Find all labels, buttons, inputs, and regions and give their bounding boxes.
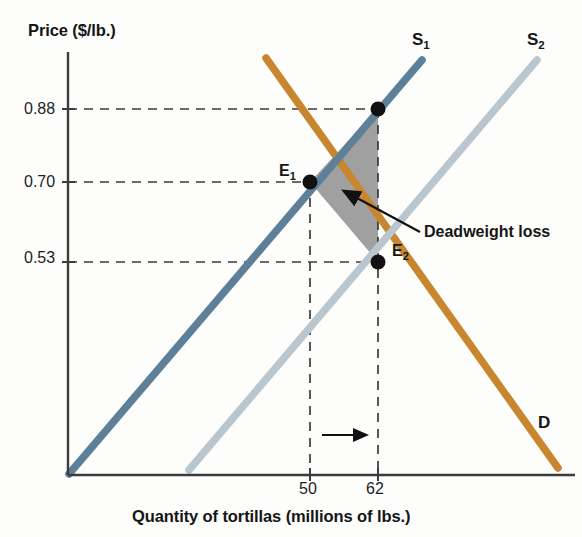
- deadweight-loss-label: Deadweight loss: [424, 224, 550, 240]
- supply-curve-s1: [69, 60, 422, 474]
- e1-subscript: 1: [290, 170, 296, 182]
- supply-curve-s1-label: S1: [412, 31, 430, 52]
- point-e1-label: E1: [279, 163, 296, 182]
- economics-supply-demand-figure: Price ($/lb.) Quantity of tortillas (mil…: [0, 0, 582, 537]
- point-e1: [303, 175, 318, 190]
- demand-curve-label: D: [538, 414, 550, 431]
- point-supply-price: [371, 102, 386, 117]
- supply-s2-subscript: 2: [538, 39, 544, 51]
- chart-canvas: [0, 0, 582, 537]
- supply-s2-letter: S: [527, 30, 538, 49]
- y-tick-label-070: 0.70: [24, 174, 55, 190]
- y-tick-label-053: 0.53: [24, 250, 55, 266]
- supply-s1-subscript: 1: [423, 39, 429, 51]
- x-axis-title: Quantity of tortillas (millions of lbs.): [132, 508, 410, 525]
- point-e2: [371, 255, 386, 270]
- y-axis-title: Price ($/lb.): [28, 22, 116, 39]
- e2-subscript: 2: [403, 250, 409, 262]
- x-tick-label-50: 50: [299, 481, 317, 497]
- e2-letter: E: [392, 242, 403, 259]
- e1-letter: E: [279, 162, 290, 179]
- supply-s1-letter: S: [412, 30, 423, 49]
- point-e2-label: E2: [392, 243, 409, 262]
- supply-curve-s2-label: S2: [527, 31, 545, 52]
- supply-curve-s2: [189, 60, 537, 470]
- y-tick-label-088: 0.88: [24, 101, 55, 117]
- x-tick-label-62: 62: [366, 481, 384, 497]
